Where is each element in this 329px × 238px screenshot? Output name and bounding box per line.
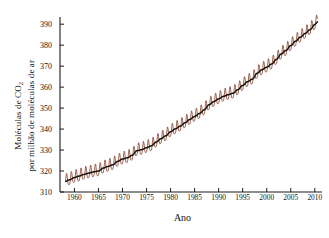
co2-keeling-curve-chart: Moléculas de CO2 por milhão de moléculas…	[0, 0, 329, 238]
plot-area	[0, 0, 329, 238]
annual-trend-series	[66, 22, 318, 181]
seasonal-oscillation-series	[66, 15, 318, 185]
